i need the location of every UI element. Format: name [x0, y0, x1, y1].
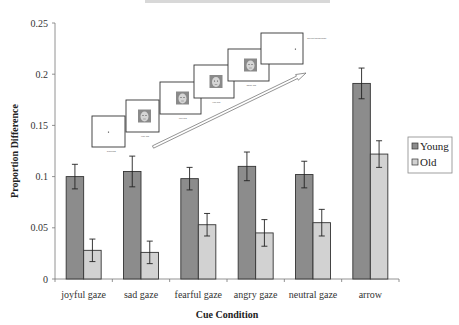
y-tick-label: 0 — [43, 274, 48, 285]
duration-label: 400 ms — [141, 135, 150, 138]
x-tick-label: fearful gaze — [175, 289, 223, 300]
legend: YoungOld — [408, 137, 452, 173]
bar-chart: 1000ms400 ms400 ms400 ms1500 msCovert Re… — [0, 0, 459, 325]
bar-young — [238, 152, 256, 279]
bar-old — [84, 239, 102, 279]
legend-label-old: Old — [420, 156, 437, 168]
duration-label: 1500 ms — [246, 84, 256, 87]
bar-young — [353, 68, 371, 279]
x-tick-label: angry gaze — [234, 289, 278, 300]
legend-swatch-old — [412, 159, 418, 165]
y-tick-label: 0.15 — [31, 120, 49, 131]
duration-label: 1000ms — [107, 150, 117, 153]
response-label: Covert Response — [307, 37, 327, 40]
x-tick-label: joyful gaze — [60, 289, 106, 300]
bars — [66, 68, 388, 279]
y-tick-label: 0.1 — [36, 171, 49, 182]
trial-screen-6 — [261, 33, 303, 64]
y-tick-label: 0.2 — [36, 69, 49, 80]
y-axis: 00.050.10.150.20.25 — [31, 18, 56, 285]
bar-old — [370, 141, 388, 279]
trial-screen-2 — [126, 100, 159, 132]
bar-young — [66, 164, 84, 279]
x-tick-label: neutral gaze — [289, 289, 338, 300]
x-axis: joyful gazesad gazefearful gazeangry gaz… — [55, 279, 399, 300]
y-axis-title: Proportion Difference — [9, 104, 20, 198]
duration-label: 400 ms — [212, 101, 221, 104]
cropped-title-fragment — [145, 0, 330, 3]
legend-swatch-young — [412, 143, 418, 149]
bar-old — [256, 220, 274, 279]
x-tick-label: arrow — [359, 289, 383, 300]
trial-screen-1 — [92, 116, 125, 147]
bar-young — [296, 161, 314, 279]
cropped-title — [145, 0, 330, 3]
bar-young — [124, 156, 142, 279]
bar-old — [313, 209, 331, 279]
bar-young — [181, 167, 199, 279]
x-tick-label: sad gaze — [124, 289, 159, 300]
bar-old — [198, 213, 216, 279]
x-axis-title: Cue Condition — [196, 309, 259, 320]
y-tick-label: 0.25 — [31, 18, 49, 29]
bar-old — [141, 241, 159, 279]
duration-label: 400 ms — [178, 117, 187, 120]
trial-sequence-inset: 1000ms400 ms400 ms400 ms1500 msCovert Re… — [92, 33, 327, 153]
legend-label-young: Young — [420, 140, 449, 152]
y-tick-label: 0.05 — [31, 222, 49, 233]
